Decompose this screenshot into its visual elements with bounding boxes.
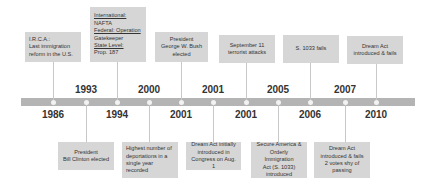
timeline-dot <box>343 100 348 105</box>
timeline-dot <box>211 100 216 105</box>
event-box-deportations: Highest number of deportations in a sing… <box>122 142 178 178</box>
event-text: 2 votes shy of <box>325 160 360 167</box>
event-text: September 11 <box>230 42 265 49</box>
year-label: 2001 <box>235 109 257 120</box>
year-label: 2000 <box>138 84 160 95</box>
timeline-dot <box>51 100 56 105</box>
connector-line <box>246 63 247 100</box>
event-text: introduced & fails <box>354 50 397 57</box>
event-box-dream-act-2010: Dream Act introduced & fails <box>347 36 403 64</box>
connector-line <box>213 104 214 144</box>
event-text: introduced in <box>197 149 229 156</box>
event-text: President <box>170 36 194 43</box>
year-label: 2006 <box>299 109 321 120</box>
event-text: Prop. 187 <box>94 49 142 56</box>
timeline-dot <box>84 100 89 105</box>
connector-line <box>376 64 377 100</box>
event-text: Act (S. 1033) <box>263 164 296 171</box>
event-box-s1033-fails: S. 1033 fails <box>283 35 339 63</box>
event-box-1994-policies: International: NAFTA Federal: Operation … <box>90 7 146 62</box>
event-text: Congress on Aug. 1 <box>190 156 237 171</box>
timeline-bar <box>21 98 415 106</box>
event-text: recorded <box>126 167 174 174</box>
event-text: elected <box>172 51 190 58</box>
event-text: Last immigration <box>29 43 77 50</box>
year-label: 2010 <box>365 109 387 120</box>
event-text: introduced <box>266 171 292 178</box>
event-text: Gatekeeper <box>94 35 142 42</box>
event-text: Dream Act <box>329 145 355 152</box>
event-text: Bill Clinton elected <box>63 156 109 163</box>
event-text: President <box>74 149 98 156</box>
event-box-irca: I.R.C.A.: Last immigration reform in the… <box>25 32 81 62</box>
year-label: 1994 <box>106 109 128 120</box>
timeline-dot <box>147 100 152 105</box>
timeline-dot <box>374 100 379 105</box>
year-label: 2007 <box>334 84 356 95</box>
connector-line <box>53 62 54 100</box>
event-box-bush: President George W. Bush elected <box>155 32 208 62</box>
event-box-clinton: President Bill Clinton elected <box>58 142 114 170</box>
event-box-dream-act-2007: Dream Act introduced & fails 2 votes shy… <box>314 142 370 178</box>
event-text: Dream Act initially <box>191 141 235 148</box>
event-text: Highest number of <box>126 145 174 152</box>
event-text: deportations in a <box>126 153 174 160</box>
event-text: I.R.C.A.: <box>29 36 77 43</box>
event-text: passing <box>332 167 351 174</box>
event-box-secure-america: Secure America & Orderly Immigration Act… <box>251 142 307 178</box>
event-text: State Level: <box>94 42 142 49</box>
event-text: reform in the U.S. <box>29 51 77 58</box>
event-box-september-11: September 11 terrorist attacks <box>219 35 275 63</box>
event-text: terrorist attacks <box>228 49 266 56</box>
timeline-dot <box>179 100 184 105</box>
event-text: Federal: Operation <box>94 27 142 34</box>
event-box-dream-act-2001: Dream Act initially introduced in Congre… <box>186 142 241 170</box>
timeline-dot <box>115 100 120 105</box>
year-label: 2005 <box>267 84 289 95</box>
year-label: 1993 <box>75 84 97 95</box>
timeline-dot <box>276 100 281 105</box>
connector-line <box>278 104 279 144</box>
connector-line <box>310 63 311 100</box>
event-text: Dream Act <box>362 43 388 50</box>
year-label: 2001 <box>170 109 192 120</box>
event-text: Secure America & <box>257 141 302 148</box>
year-label: 1986 <box>42 109 64 120</box>
connector-line <box>345 104 346 144</box>
event-text: introduced & fails <box>321 153 364 160</box>
timeline-dot <box>308 100 313 105</box>
event-text: single year <box>126 160 174 167</box>
year-label: 2001 <box>202 84 224 95</box>
event-text: NAFTA <box>94 20 142 27</box>
event-text: International: <box>94 12 142 19</box>
connector-line <box>181 62 182 100</box>
timeline-dot <box>244 100 249 105</box>
connector-line <box>117 62 118 100</box>
event-text: S. 1033 fails <box>296 45 327 52</box>
event-text: George W. Bush <box>161 43 202 50</box>
connector-line <box>149 104 150 144</box>
event-text: Orderly Immigration <box>255 149 303 164</box>
